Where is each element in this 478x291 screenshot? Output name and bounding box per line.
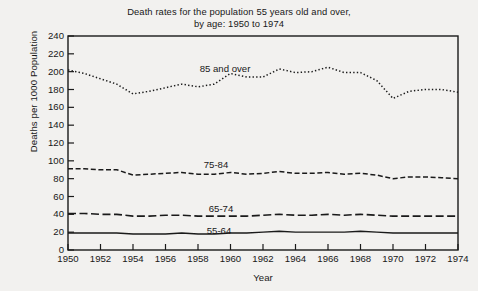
- plot-area: [0, 0, 478, 291]
- series-line-55-64: [68, 231, 458, 234]
- data-series-layer: [68, 67, 458, 234]
- series-label-55-64: 55-64: [207, 225, 232, 236]
- series-label-85-and-over: 85 and over: [200, 63, 251, 74]
- series-line-85-and-over: [68, 67, 458, 98]
- series-line-75-84: [68, 169, 458, 179]
- axis-tickmarks: [68, 36, 458, 250]
- series-label-75-84: 75-84: [204, 159, 229, 170]
- series-label-65-74: 65-74: [209, 203, 234, 214]
- chart-figure: Death rates for the population 55 years …: [0, 0, 478, 291]
- series-line-65-74: [68, 213, 458, 216]
- plot-frame: [68, 36, 458, 250]
